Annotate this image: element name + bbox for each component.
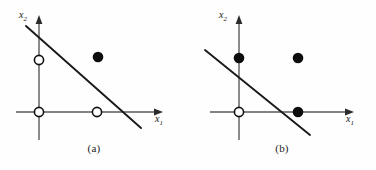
data-point-open-origin-b bbox=[234, 107, 243, 116]
x-axis-label-a: x1 bbox=[155, 113, 163, 127]
decision-boundary-line-b bbox=[205, 50, 310, 135]
data-point-filled-1-1-a bbox=[93, 52, 104, 63]
data-point-open-0-1-a bbox=[34, 55, 43, 64]
y-axis-label-a: x2 bbox=[19, 9, 27, 23]
y-axis-a bbox=[36, 15, 43, 140]
data-point-open-1-0-a bbox=[92, 107, 101, 116]
panel-b: x2 x1 (b) bbox=[188, 0, 376, 170]
y-axis-label-b: x2 bbox=[219, 9, 227, 23]
data-point-filled-0-1-b bbox=[234, 53, 245, 64]
panel-b-caption: (b) bbox=[188, 142, 376, 154]
data-point-filled-1-1-b bbox=[293, 53, 304, 64]
data-point-open-origin-a bbox=[34, 107, 43, 116]
panel-a: x2 x1 (a) bbox=[0, 0, 188, 170]
data-point-filled-1-0-b bbox=[293, 107, 304, 118]
figure-canvas: x2 x1 (a) bbox=[0, 0, 376, 170]
panel-a-caption: (a) bbox=[0, 142, 188, 154]
x-axis-label-b: x1 bbox=[346, 113, 354, 127]
